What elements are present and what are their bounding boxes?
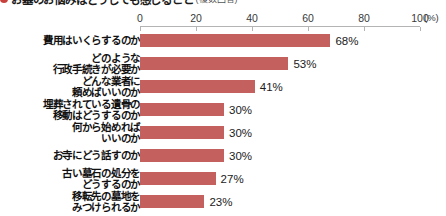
bar-value-label: 27%: [221, 173, 244, 185]
bar-category-label: 費用はいくらするのか: [4, 29, 140, 52]
bar-category-label-line: どのような: [91, 53, 140, 64]
bar: [140, 195, 204, 208]
bar-category-label-line: どんな業者に: [82, 76, 140, 87]
bar-category-label-line: どうするのか: [82, 179, 140, 190]
bar-value-label: 30%: [229, 127, 252, 139]
bar-value-label: 41%: [260, 81, 283, 93]
bar-value-label: 23%: [209, 196, 232, 208]
bar-category-label-line: 何から始めれば: [72, 122, 140, 133]
bar-category-label-line: 移転先の墓地を: [72, 191, 140, 202]
bar-track: 27%: [140, 167, 446, 190]
bar-track: 41%: [140, 75, 446, 98]
bar-row: 古い墓石の処分をどうするのか27%: [0, 167, 446, 190]
bar-category-label-line: 古い墓石の処分を: [62, 168, 140, 179]
bar: [140, 57, 288, 70]
x-axis-unit-label: (%): [424, 12, 439, 23]
x-axis-tick-label: 20: [190, 12, 202, 24]
x-axis-tick-label: 0: [137, 12, 143, 24]
bar-track: 30%: [140, 98, 446, 121]
bar-value-label: 30%: [229, 150, 252, 162]
bar: [140, 149, 224, 162]
bar-row: どのような行政手続きが必要か53%: [0, 52, 446, 75]
bar-track: 30%: [140, 144, 446, 167]
bar-value-label: 53%: [293, 58, 316, 70]
bar-row: お寺にどう話すのか30%: [0, 144, 446, 167]
bar: [140, 103, 224, 116]
bar-category-label-line: みつけられるか: [72, 202, 140, 213]
bar-category-label: お寺にどう話すのか: [4, 144, 140, 167]
bar-category-label-line: お寺にどう話すのか: [53, 150, 140, 161]
bar: [140, 34, 330, 47]
bar-track: 53%: [140, 52, 446, 75]
x-axis-tick-label: 80: [358, 12, 370, 24]
bar-row: 移転先の墓地をみつけられるか23%: [0, 190, 446, 213]
bar-value-label: 30%: [229, 104, 252, 116]
horizontal-bar-chart: 020406080100 (%) 費用はいくらするのか68%どのような行政手続き…: [0, 0, 446, 216]
x-axis-tick-label: 40: [246, 12, 258, 24]
x-axis: 020406080100 (%): [140, 26, 420, 27]
bar-category-label-line: 埋葬されている遺骨の: [43, 99, 140, 110]
bar-category-label-line: 移動はどうするのか: [53, 110, 140, 121]
bar-category-label: 何から始めればいいのか: [4, 121, 140, 144]
bar-track: 23%: [140, 190, 446, 213]
x-axis-tick-label: 60: [302, 12, 314, 24]
bar-row: 何から始めればいいのか30%: [0, 121, 446, 144]
bar: [140, 172, 216, 185]
bar-row: どんな業者に頼めばいいのか41%: [0, 75, 446, 98]
bar: [140, 126, 224, 139]
bar-category-label-line: 頼めばいいのか: [72, 87, 140, 98]
bar-row: 埋葬されている遺骨の移動はどうするのか30%: [0, 98, 446, 121]
bar-category-label: 埋葬されている遺骨の移動はどうするのか: [4, 98, 140, 121]
bar-value-label: 68%: [335, 35, 358, 47]
bar-category-label-line: 行政手続きが必要か: [53, 64, 140, 75]
bar-category-label-line: いいのか: [101, 133, 140, 144]
bar-category-label: 古い墓石の処分をどうするのか: [4, 167, 140, 190]
bar-category-label-line: 費用はいくらするのか: [43, 35, 140, 46]
bar: [140, 80, 255, 93]
bar-category-label: どんな業者に頼めばいいのか: [4, 75, 140, 98]
bar-track: 68%: [140, 29, 446, 52]
bar-track: 30%: [140, 121, 446, 144]
bar-row: 費用はいくらするのか68%: [0, 29, 446, 52]
bar-category-label: どのような行政手続きが必要か: [4, 52, 140, 75]
bar-category-label: 移転先の墓地をみつけられるか: [4, 190, 140, 213]
